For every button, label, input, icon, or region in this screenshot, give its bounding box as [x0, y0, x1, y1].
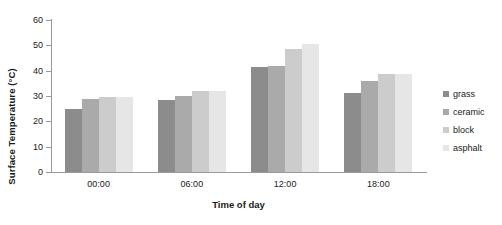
- bar[interactable]: [344, 93, 361, 172]
- y-axis-tick-label: 10: [3, 142, 43, 152]
- legend-item[interactable]: block: [443, 121, 501, 139]
- legend-item[interactable]: grass: [443, 85, 501, 103]
- legend-swatch-icon: [443, 91, 449, 97]
- x-axis-tick-label: 12:00: [240, 179, 330, 189]
- legend-label: block: [453, 125, 474, 135]
- y-axis-tick-label: 0: [3, 167, 43, 177]
- bar[interactable]: [361, 81, 378, 172]
- x-axis-tick-label: 00:00: [54, 179, 144, 189]
- x-axis-tick-label: 06:00: [147, 179, 237, 189]
- bar-group: [158, 20, 226, 172]
- y-axis-tick-label: 40: [3, 66, 43, 76]
- bar[interactable]: [395, 74, 412, 172]
- bar[interactable]: [268, 66, 285, 172]
- legend-label: ceramic: [453, 107, 485, 117]
- legend-label: asphalt: [453, 143, 482, 153]
- bar-group: [344, 20, 412, 172]
- x-axis-line: [51, 172, 427, 173]
- bar-group: [65, 20, 133, 172]
- legend-label: grass: [453, 89, 475, 99]
- plot-area: [52, 20, 425, 172]
- legend-item[interactable]: ceramic: [443, 103, 501, 121]
- bar-chart: Surface Temperature (°C) 0102030405060 0…: [0, 0, 502, 225]
- legend: grassceramicblockasphalt: [443, 85, 501, 157]
- bar[interactable]: [65, 109, 82, 172]
- bar[interactable]: [158, 100, 175, 172]
- bar[interactable]: [116, 97, 133, 172]
- y-axis-tick-label: 20: [3, 116, 43, 126]
- legend-swatch-icon: [443, 109, 449, 115]
- legend-swatch-icon: [443, 145, 449, 151]
- y-axis-tick-label: 50: [3, 40, 43, 50]
- y-axis-tick-label: 30: [3, 91, 43, 101]
- bar[interactable]: [302, 44, 319, 172]
- bar[interactable]: [99, 97, 116, 172]
- bar-group: [251, 20, 319, 172]
- bar[interactable]: [251, 67, 268, 172]
- bar[interactable]: [175, 96, 192, 172]
- legend-item[interactable]: asphalt: [443, 139, 501, 157]
- x-axis-tick-label: 18:00: [333, 179, 423, 189]
- y-axis-tick-label: 60: [3, 15, 43, 25]
- bar[interactable]: [285, 49, 302, 172]
- bar[interactable]: [378, 74, 395, 172]
- x-axis-title: Time of day: [52, 199, 425, 210]
- legend-swatch-icon: [443, 127, 449, 133]
- bar[interactable]: [209, 91, 226, 172]
- y-axis-tick-labels: 0102030405060: [0, 0, 43, 225]
- bar[interactable]: [82, 99, 99, 172]
- bar[interactable]: [192, 91, 209, 172]
